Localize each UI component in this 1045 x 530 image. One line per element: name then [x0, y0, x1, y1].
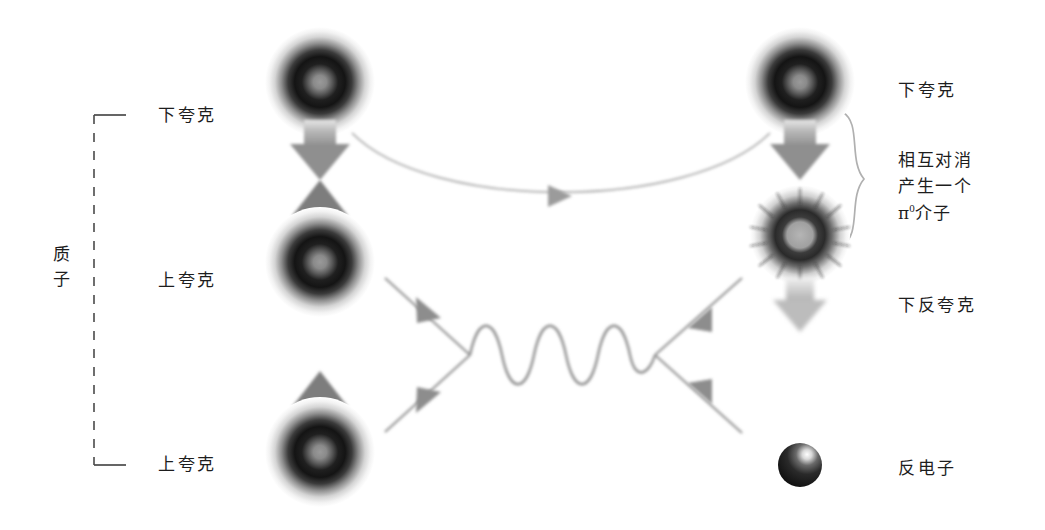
pion-symbol: π: [898, 202, 909, 222]
proton-label-line-2: 子: [48, 268, 74, 293]
feynman-interaction: [385, 278, 742, 433]
spin-arrow-up: [292, 180, 348, 241]
proton-bracket: [94, 115, 126, 465]
meson-word: 介子: [915, 203, 952, 222]
right-label-positron: 反电子: [898, 456, 957, 482]
spin-arrow-up: [292, 371, 348, 432]
left-label-up-quark-bottom: 上夸克: [158, 452, 217, 478]
particle-positron: [778, 443, 822, 487]
left-label-down-quark: 下夸克: [158, 103, 217, 129]
particle-down-quark-out: [745, 27, 855, 180]
proton-label-line-1: 质: [48, 243, 74, 268]
annihilation-brace: [842, 112, 864, 246]
outgoing-upper-line: [655, 278, 742, 355]
left-label-up-quark-middle: 上夸克: [158, 268, 217, 294]
feynman-arrowheads: [416, 297, 712, 413]
annihilation-note-line-2: 产生一个: [898, 174, 972, 200]
spin-arrow-down: [773, 278, 827, 332]
outgoing-lower-line: [655, 355, 742, 433]
spin-arrow-down: [770, 120, 830, 180]
spin-arrow-down: [290, 120, 350, 180]
particle-up-quark-middle: [265, 180, 375, 317]
proton-label: 质 子: [48, 243, 74, 292]
starburst-rays: [750, 188, 850, 283]
incoming-lower-line: [385, 355, 470, 432]
particle-down-quark-in: [265, 27, 375, 180]
diagram-graphics-layer: [0, 0, 1045, 530]
annihilation-note: 相互对消 产生一个 π0介子: [898, 148, 972, 226]
annihilation-note-line-3: π0介子: [898, 200, 972, 226]
quark-transfer-arc: [352, 133, 770, 207]
particle-up-quark-bottom: [265, 371, 375, 507]
feynman-diagram-canvas: 质 子 下夸克 上夸克 上夸克 下夸克 相互对消 产生一个 π0介子 下反夸克 …: [0, 0, 1045, 530]
right-label-down-quark: 下夸克: [898, 78, 957, 104]
right-label-down-antiquark: 下反夸克: [898, 293, 976, 319]
annihilation-note-line-1: 相互对消: [898, 148, 972, 174]
particle-down-antiquark: [750, 185, 850, 332]
incoming-upper-line: [385, 278, 470, 355]
boson-wave: [470, 326, 655, 385]
